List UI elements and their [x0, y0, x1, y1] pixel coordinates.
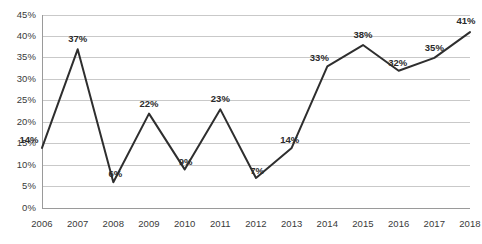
data-point-label: 6% — [98, 168, 132, 179]
x-axis-tick-label: 2011 — [200, 218, 240, 229]
data-point-label: 32% — [381, 57, 415, 68]
y-axis-tick-label: 0% — [2, 202, 36, 213]
data-point-label: 14% — [12, 134, 46, 145]
x-axis-tick-label: 2006 — [22, 218, 62, 229]
y-axis-tick-label: 30% — [2, 73, 36, 84]
x-axis-tick-label: 2014 — [307, 218, 347, 229]
data-point-label: 7% — [240, 165, 274, 176]
x-axis-tick-label: 2009 — [129, 218, 169, 229]
y-axis-tick-label: 20% — [2, 116, 36, 127]
y-axis-tick-label: 5% — [2, 180, 36, 191]
data-point-label: 33% — [302, 52, 336, 63]
line-chart: 0%5%10%15%20%25%30%35%40%45% 20062007200… — [0, 0, 482, 244]
data-point-label: 37% — [61, 33, 95, 44]
y-axis-tick-label: 35% — [2, 51, 36, 62]
data-series-line — [42, 32, 470, 182]
y-axis-tick-label: 45% — [2, 9, 36, 20]
data-point-label: 14% — [273, 134, 307, 145]
x-axis-tick-label: 2010 — [165, 218, 205, 229]
x-axis-tick-label: 2015 — [343, 218, 383, 229]
y-axis-tick-label: 10% — [2, 159, 36, 170]
x-axis-tick-label: 2018 — [450, 218, 482, 229]
x-axis-tick-label: 2013 — [272, 218, 312, 229]
data-point-label: 38% — [346, 29, 380, 40]
y-axis-tick-label: 25% — [2, 94, 36, 105]
x-axis-tick-label: 2017 — [414, 218, 454, 229]
data-point-label: 9% — [169, 156, 203, 167]
x-axis-tick-label: 2007 — [58, 218, 98, 229]
data-point-label: 22% — [132, 98, 166, 109]
x-axis-tick-label: 2016 — [379, 218, 419, 229]
y-axis-tick-label: 40% — [2, 30, 36, 41]
data-point-label: 23% — [203, 93, 237, 104]
data-point-label: 41% — [449, 15, 482, 26]
data-point-label: 35% — [417, 42, 451, 53]
x-axis-tick-label: 2008 — [93, 218, 133, 229]
x-axis-tick-label: 2012 — [236, 218, 276, 229]
